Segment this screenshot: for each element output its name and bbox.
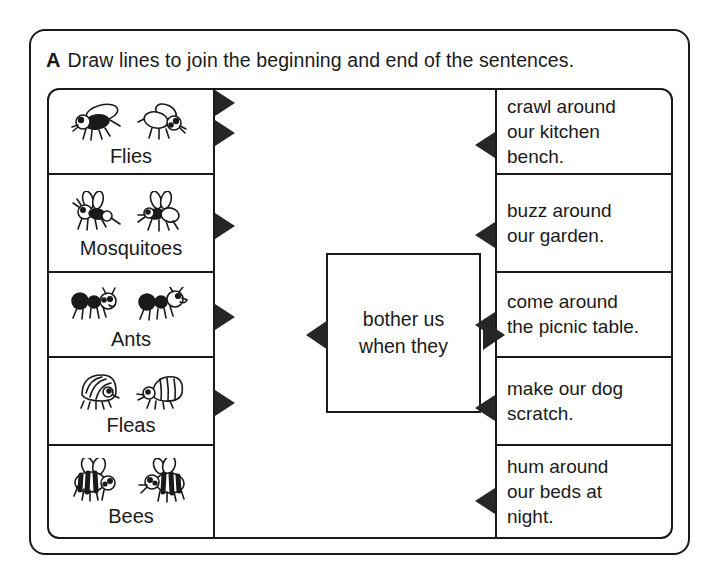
right-line: our beds at bbox=[507, 479, 671, 504]
arrow-right-mosquitoes bbox=[215, 213, 235, 239]
arrow-left-hum bbox=[475, 488, 495, 514]
center-line-1: bother us bbox=[363, 306, 444, 333]
left-label: Flies bbox=[110, 145, 152, 167]
right-row-make[interactable]: make our dog scratch. bbox=[497, 358, 673, 446]
exercise-instruction: Draw lines to join the beginning and end… bbox=[68, 49, 575, 72]
exercise-heading: A Draw lines to join the beginning and e… bbox=[46, 42, 676, 78]
left-row-mosquitoes[interactable]: Mosquitoes bbox=[49, 175, 213, 273]
arrow-left-buzz bbox=[475, 222, 495, 248]
arrow-left-make bbox=[475, 395, 495, 421]
mosquito-icon bbox=[70, 190, 192, 236]
left-label: Ants bbox=[111, 328, 151, 350]
arrow-center-left bbox=[306, 320, 328, 350]
right-line: buzz around bbox=[507, 198, 671, 223]
right-row-buzz[interactable]: buzz around our garden. bbox=[497, 175, 673, 273]
exercise-letter: A bbox=[46, 49, 61, 72]
bee-icon bbox=[68, 458, 194, 504]
arrow-center-right bbox=[483, 320, 505, 350]
right-line: the picnic table. bbox=[507, 314, 671, 339]
right-row-crawl[interactable]: crawl around our kitchen bench. bbox=[497, 90, 673, 175]
matching-table: Flies bbox=[47, 88, 673, 539]
left-row-flies[interactable]: Flies bbox=[49, 90, 213, 175]
right-row-come[interactable]: come around the picnic table. bbox=[497, 273, 673, 357]
center-phrase-box[interactable]: bother us when they bbox=[326, 253, 481, 413]
arrow-left-crawl bbox=[475, 132, 495, 158]
left-label: Fleas bbox=[107, 414, 156, 436]
right-line: come around bbox=[507, 289, 671, 314]
arrow-right-ants bbox=[215, 304, 235, 330]
right-line: scratch. bbox=[507, 401, 671, 426]
ant-icon bbox=[68, 281, 194, 327]
left-row-fleas[interactable]: Fleas bbox=[49, 358, 213, 446]
right-line: hum around bbox=[507, 454, 671, 479]
right-line: night. bbox=[507, 504, 671, 529]
right-line: make our dog bbox=[507, 376, 671, 401]
worksheet-page: A Draw lines to join the beginning and e… bbox=[0, 0, 713, 571]
arrow-right-fleas bbox=[215, 390, 235, 416]
left-label: Mosquitoes bbox=[80, 237, 182, 259]
arrow-right-bees bbox=[215, 90, 235, 116]
center-line-2: when they bbox=[359, 333, 448, 360]
flea-icon bbox=[72, 367, 190, 413]
left-label: Bees bbox=[108, 505, 154, 527]
arrow-right-flies bbox=[215, 120, 235, 146]
right-line: our garden. bbox=[507, 223, 671, 248]
left-row-ants[interactable]: Ants bbox=[49, 273, 213, 357]
right-line: crawl around bbox=[507, 94, 671, 119]
right-row-hum[interactable]: hum around our beds at night. bbox=[497, 446, 673, 537]
left-column: Flies bbox=[49, 90, 213, 537]
left-row-bees[interactable]: Bees bbox=[49, 446, 213, 537]
right-line: bench. bbox=[507, 144, 671, 169]
right-line: our kitchen bbox=[507, 119, 671, 144]
right-column: crawl around our kitchen bench. buzz aro… bbox=[497, 90, 673, 537]
fly-icon bbox=[70, 98, 192, 144]
